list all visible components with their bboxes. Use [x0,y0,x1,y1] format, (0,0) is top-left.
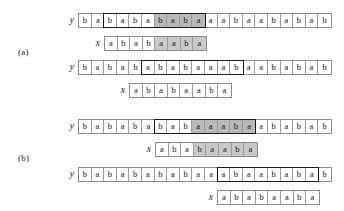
sequence-cell: a [117,168,130,181]
sequence-cell: a [155,37,168,50]
sequence-cell: a [105,37,118,50]
sequence-cell: b [79,168,92,181]
sequence-cell: b [268,14,281,27]
sequence-cell: a [192,61,205,74]
row-a1-x: xababaaba [88,35,207,51]
sequence-cell: b [206,84,219,97]
group-label: (b) [18,153,29,163]
sequence-cell: a [156,143,169,156]
sequence-cell: a [180,84,193,97]
sequence-cell: a [117,120,130,133]
sequence-cell: b [104,168,117,181]
sequence-cell: b [79,14,92,27]
sequence-cell: b [79,120,92,133]
sequence-cell: a [167,14,180,27]
sequence-cell: a [193,84,206,97]
row-a2-x: xababaaba [113,82,232,98]
sequence-cell: b [293,14,306,27]
sequence-cell: a [92,168,105,181]
sequence-cell: a [218,84,231,97]
sequence-cell: a [155,84,168,97]
row-b1-x: xababaaba [139,141,258,157]
sequence-cell: a [192,168,205,181]
sequence-cell: a [243,61,256,74]
sequence-cell: a [167,120,180,133]
sequence-cell: b [155,61,168,74]
sequence-cell: a [142,61,155,74]
sequence-cell: a [243,120,256,133]
sequence-cell: a [243,191,256,204]
sequence-cell: b [180,120,193,133]
sequence-cell: b [230,168,243,181]
sequence-cell: a [192,14,205,27]
sequence-cell: a [281,61,294,74]
sequence-segment: aababab [243,61,331,74]
sequence-cell: b [180,14,193,27]
sequence-cell: b [256,191,269,204]
sequence-variable-label: y [62,62,74,72]
sequence-cell: a [92,61,105,74]
sequence-variable-label: x [113,85,125,95]
sequence-cell: b [169,143,182,156]
sequence-cell: a [255,120,268,133]
sequence-cell: a [218,191,231,204]
sequence-strip: ababaaba [155,142,258,157]
sequence-cell: a [255,61,268,74]
sequence-cell: b [143,37,156,50]
sequence-cell: b [155,168,168,181]
sequence-cell: a [167,61,180,74]
highlighted-substring-box: abaababa [217,167,320,182]
sequence-cell: b [104,120,117,133]
sequence-cell: a [306,61,319,74]
sequence-cell: b [318,120,331,133]
sequence-cell: b [129,120,142,133]
sequence-segment: ababaaba [105,37,206,50]
sequence-cell: b [293,61,306,74]
sequence-cell: a [218,120,231,133]
sequence-cell: a [218,168,231,181]
sequence-cell: a [218,14,231,27]
sequence-cell: a [243,14,256,27]
sequence-cell: a [142,168,155,181]
sequence-strip: bababababaaabaababab [78,60,332,75]
sequence-cell: b [180,61,193,74]
sequence-cell: b [318,168,331,181]
group-label: (a) [18,47,29,57]
sequence-segment: bababa [79,120,155,133]
sequence-cell: b [318,14,331,27]
sequence-cell: b [155,120,168,133]
row-b1-y: ybababababaaabaababab [62,118,332,134]
sequence-segment: bababababaa [79,168,218,181]
sequence-cell: b [181,37,194,50]
sequence-cell: a [168,37,181,50]
sequence-cell: b [318,61,331,74]
sequence-cell: a [281,191,294,204]
sequence-variable-label: y [62,169,74,179]
sequence-cell: a [205,120,218,133]
sequence-cell: a [167,168,180,181]
sequence-cell: a [142,14,155,27]
sequence-cell: a [117,14,130,27]
sequence-cell: b [194,143,207,156]
sequence-cell: b [293,168,306,181]
sequence-cell: a [218,61,231,74]
sequence-strip: bababababaaabaababab [78,167,332,182]
sequence-segment: aabaababab [205,14,331,27]
highlighted-substring-box: ababaaab [141,60,244,75]
sequence-cell: a [92,120,105,133]
sequence-variable-label: x [139,144,151,154]
row-a2-y: ybababababaaabaababab [62,59,332,75]
sequence-cell: b [268,168,281,181]
sequence-cell: a [130,37,143,50]
sequence-cell: b [129,14,142,27]
sequence-cell: a [193,37,206,50]
sequence-cell: a [205,61,218,74]
sequence-cell: a [268,191,281,204]
sequence-cell: a [306,120,319,133]
sequence-cell: a [192,120,205,133]
sequence-cell: a [306,14,319,27]
sequence-segment: ababaaba [156,143,257,156]
sequence-cell: a [255,14,268,27]
sequence-cell: b [294,191,307,204]
sequence-segment: babab [79,61,142,74]
